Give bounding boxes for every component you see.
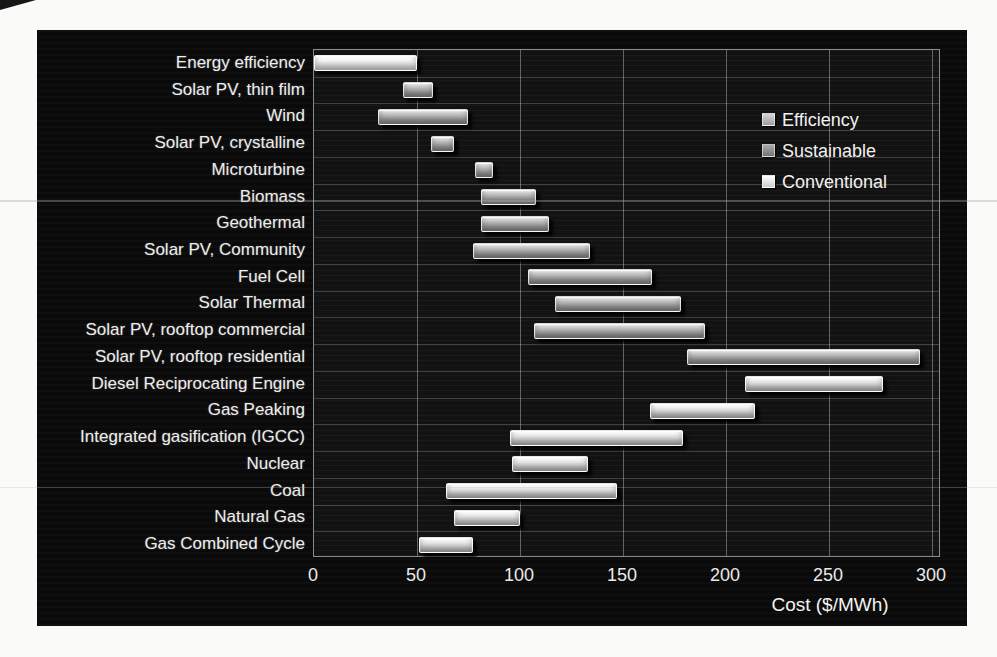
legend-label-sustainable: Sustainable — [782, 142, 876, 160]
category-label-wind: Wind — [41, 102, 305, 129]
category-label-solar-pv-crystalline: Solar PV, crystalline — [41, 129, 305, 156]
category-label-energy-efficiency: Energy efficiency — [41, 49, 305, 76]
category-label-diesel-reciprocating-engine: Diesel Reciprocating Engine — [41, 370, 305, 397]
legend-marker-conventional-icon — [762, 175, 775, 188]
chart-panel: Energy efficiencySolar PV, thin filmWind… — [37, 30, 967, 626]
x-tick-label-300: 300 — [909, 566, 953, 586]
bar-energy-efficiency — [314, 55, 417, 71]
bar-diesel-reciprocating-engine — [745, 376, 883, 392]
bar-gas-peaking — [650, 403, 755, 419]
category-label-biomass: Biomass — [41, 183, 305, 210]
gridline-row — [314, 478, 939, 479]
category-label-microturbine: Microturbine — [41, 156, 305, 183]
category-label-coal: Coal — [41, 477, 305, 504]
x-tick-label-100: 100 — [497, 566, 541, 586]
scanned-page: Energy efficiencySolar PV, thin filmWind… — [0, 0, 997, 657]
gridline-x-100 — [520, 50, 521, 556]
plot-area: EfficiencySustainableConventional — [313, 49, 940, 557]
legend-item-sustainable: Sustainable — [762, 135, 887, 166]
bar-wind — [378, 109, 469, 125]
gridline-row — [314, 451, 939, 452]
gridline-x-200 — [726, 50, 727, 556]
legend-marker-efficiency-icon — [762, 113, 775, 126]
bar-biomass — [481, 189, 537, 205]
legend-item-conventional: Conventional — [762, 166, 887, 197]
x-tick-label-50: 50 — [394, 566, 438, 586]
legend-label-efficiency: Efficiency — [782, 111, 859, 129]
bar-microturbine — [475, 162, 494, 178]
legend: EfficiencySustainableConventional — [762, 104, 887, 197]
bar-coal — [446, 483, 617, 499]
x-axis: 050100150200250300 — [313, 566, 940, 590]
gridline-row — [314, 531, 939, 532]
bar-gas-combined-cycle — [419, 537, 473, 553]
legend-marker-sustainable-icon — [762, 144, 775, 157]
legend-label-conventional: Conventional — [782, 173, 887, 191]
gridline-row — [314, 505, 939, 506]
bar-nuclear — [512, 456, 588, 472]
legend-item-efficiency: Efficiency — [762, 104, 887, 135]
x-tick-label-0: 0 — [291, 566, 335, 586]
bar-solar-pv-community — [473, 243, 590, 259]
gridline-row — [314, 344, 939, 345]
category-label-solar-pv-community: Solar PV, Community — [41, 236, 305, 263]
bar-solar-pv-rooftop-commercial — [534, 323, 705, 339]
gridline-row — [314, 291, 939, 292]
bar-integrated-gasification-igcc — [510, 430, 683, 446]
bar-solar-thermal — [555, 296, 681, 312]
x-tick-label-150: 150 — [600, 566, 644, 586]
bar-fuel-cell — [528, 269, 652, 285]
x-tick-label-250: 250 — [806, 566, 850, 586]
gridline-row — [314, 398, 939, 399]
bar-solar-pv-thin-film — [403, 82, 434, 98]
scan-corner-artifact — [0, 0, 36, 10]
gridline-x-50 — [417, 50, 418, 556]
gridline-row — [314, 77, 939, 78]
x-axis-title: Cost ($/MWh) — [710, 595, 950, 616]
category-label-fuel-cell: Fuel Cell — [41, 263, 305, 290]
category-label-solar-thermal: Solar Thermal — [41, 290, 305, 317]
category-label-solar-pv-thin-film: Solar PV, thin film — [41, 76, 305, 103]
gridline-row — [314, 237, 939, 238]
gridline-row — [314, 210, 939, 211]
gridline-row — [314, 317, 939, 318]
gridline-row — [314, 424, 939, 425]
gridline-x-300 — [932, 50, 933, 556]
gridline-row — [314, 264, 939, 265]
category-label-geothermal: Geothermal — [41, 209, 305, 236]
category-label-solar-pv-rooftop-commercial: Solar PV, rooftop commercial — [41, 316, 305, 343]
category-label-nuclear: Nuclear — [41, 450, 305, 477]
category-label-gas-combined-cycle: Gas Combined Cycle — [41, 530, 305, 557]
bar-natural-gas — [454, 510, 520, 526]
bar-geothermal — [481, 216, 549, 232]
category-label-solar-pv-rooftop-residential: Solar PV, rooftop residential — [41, 343, 305, 370]
bar-solar-pv-rooftop-residential — [687, 349, 920, 365]
category-label-gas-peaking: Gas Peaking — [41, 397, 305, 424]
gridline-row — [314, 371, 939, 372]
x-tick-label-200: 200 — [703, 566, 747, 586]
category-axis: Energy efficiencySolar PV, thin filmWind… — [41, 49, 305, 557]
bar-solar-pv-crystalline — [431, 136, 454, 152]
category-label-integrated-gasification-igcc: Integrated gasification (IGCC) — [41, 423, 305, 450]
category-label-natural-gas: Natural Gas — [41, 503, 305, 530]
